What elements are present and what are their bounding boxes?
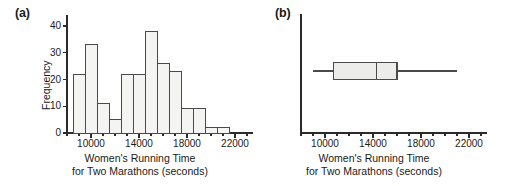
histogram-bar: [85, 45, 97, 133]
histogram-bar: [145, 31, 157, 133]
histogram-y-tick-label: 30: [29, 47, 61, 58]
figure-container: (a) Frequency 10000140001800022000010203…: [0, 0, 517, 186]
boxplot-x-axis-title-line1: Women's Running Time: [274, 152, 474, 165]
histogram-y-tick-label: 40: [29, 20, 61, 31]
histogram-bar: [97, 104, 109, 133]
histogram-x-axis-title-line2: for Two Marathons (seconds): [40, 165, 240, 178]
histogram-x-axis-title: Women's Running Time for Two Marathons (…: [40, 152, 240, 178]
histogram-bar: [157, 63, 169, 133]
histogram-bar: [73, 74, 85, 133]
histogram-x-tick-label: 22000: [210, 138, 260, 149]
boxplot-x-tick-label: 14000: [348, 138, 398, 149]
histogram-x-axis-title-line1: Women's Running Time: [40, 152, 240, 165]
boxplot-x-tick-label: 10000: [300, 138, 350, 149]
histogram-bar: [181, 109, 193, 133]
histogram-bar: [121, 74, 133, 133]
boxplot-x-axis-title-line2: for Two Marathons (seconds): [274, 165, 474, 178]
histogram-x-tick-label: 10000: [66, 138, 116, 149]
histogram-bar: [193, 109, 205, 133]
histogram-bar: [217, 128, 229, 133]
histogram-bar: [205, 128, 217, 133]
histogram-y-tick-label: 0: [29, 127, 61, 138]
histogram-x-tick-label: 14000: [114, 138, 164, 149]
panel-b-boxplot: (b) 10000140001800022000 Women's Running…: [258, 0, 517, 186]
histogram-bar: [169, 71, 181, 133]
boxplot-x-tick-label: 22000: [444, 138, 494, 149]
histogram-y-tick-label: 10: [29, 100, 61, 111]
histogram-x-tick-label: 18000: [162, 138, 212, 149]
panel-a-histogram: (a) Frequency 10000140001800022000010203…: [0, 0, 258, 186]
boxplot-x-axis-title: Women's Running Time for Two Marathons (…: [274, 152, 474, 178]
histogram-bar: [133, 74, 145, 133]
boxplot-x-tick-label: 18000: [396, 138, 446, 149]
histogram-y-tick-label: 20: [29, 74, 61, 85]
histogram-bar: [109, 120, 121, 133]
boxplot-box: [333, 63, 397, 80]
